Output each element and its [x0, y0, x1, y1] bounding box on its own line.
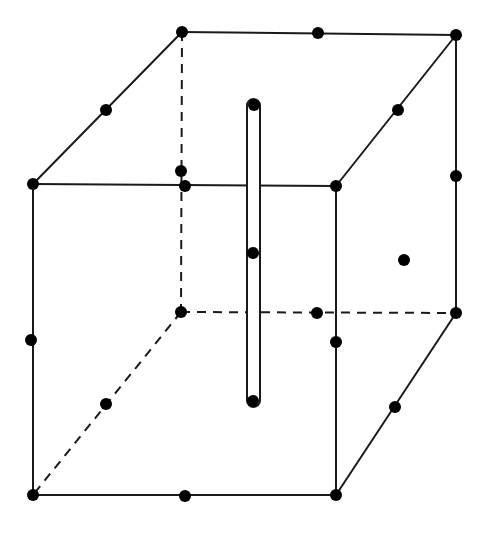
point-corner-back-top-right	[450, 29, 462, 41]
point-edge-mid-front-right-vertical	[330, 336, 342, 348]
lattice-points	[25, 26, 462, 502]
point-corner-front-top-right	[330, 180, 342, 192]
point-edge-mid-back-left-vertical	[175, 165, 187, 177]
point-edge-mid-front-left-vertical	[25, 334, 37, 346]
point-edge-mid-back-bottom	[311, 307, 323, 319]
point-rod-bottom	[247, 395, 259, 407]
unit-cell-diagram	[0, 0, 485, 533]
visible-edges	[33, 32, 456, 495]
point-corner-front-bottom-left	[27, 489, 39, 501]
point-rod-top	[248, 99, 260, 111]
point-edge-mid-bottom-left-diagonal	[100, 398, 112, 410]
point-corner-front-bottom-right	[330, 489, 342, 501]
point-edge-mid-back-right-vertical	[450, 170, 462, 182]
point-rod-center	[247, 247, 259, 259]
point-edge-mid-front-top	[179, 180, 191, 192]
point-face-center-right	[398, 254, 410, 266]
point-corner-back-bottom-left	[175, 306, 187, 318]
point-corner-back-top-left	[176, 26, 188, 38]
point-edge-mid-front-bottom	[179, 490, 191, 502]
point-corner-front-top-left	[27, 178, 39, 190]
cube-svg	[0, 0, 485, 533]
point-edge-mid-top-back	[312, 27, 324, 39]
point-edge-mid-top-right-diagonal	[392, 104, 404, 116]
point-edge-mid-bottom-right-diagonal	[389, 401, 401, 413]
hidden-edges	[33, 32, 456, 495]
point-edge-mid-top-left-diagonal	[100, 104, 112, 116]
point-corner-back-bottom-right	[450, 307, 462, 319]
